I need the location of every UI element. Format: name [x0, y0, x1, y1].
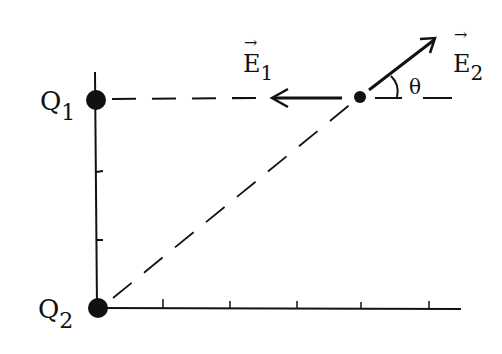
e2-vector — [369, 40, 434, 90]
field-point — [354, 91, 366, 103]
angle-arc — [391, 76, 398, 97]
y-tick — [96, 171, 103, 172]
charge-q1 — [86, 90, 106, 110]
charge-q2 — [88, 298, 108, 318]
e1-vector-arrow-icon: → — [244, 33, 257, 52]
e2-vector-arrow-icon: → — [454, 25, 467, 44]
dashed-line-q2 — [113, 103, 352, 298]
field-diagram: Q1 Q2 E1 → E2 → θ — [0, 0, 502, 354]
q1-label: Q1 — [40, 86, 75, 125]
angle-theta-label: θ — [409, 75, 421, 99]
q2-label: Q2 — [38, 294, 73, 333]
x-axis — [98, 308, 461, 309]
e2-label: E2 — [453, 50, 483, 85]
e1-label: E1 — [243, 50, 273, 85]
